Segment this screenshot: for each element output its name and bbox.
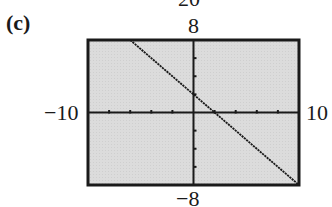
graph-window xyxy=(0,0,332,207)
